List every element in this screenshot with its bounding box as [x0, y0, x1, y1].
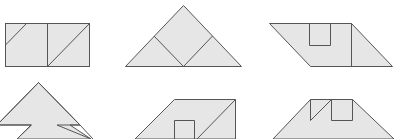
shape-6-trapezoid	[273, 100, 394, 140]
shape-5-parallelogram	[135, 100, 236, 140]
shapes-figure	[0, 0, 398, 139]
shape-4-arrowhead	[0, 83, 93, 140]
shape-1-rectangle	[6, 24, 90, 67]
shape-2-triangle	[126, 6, 242, 67]
shape-3-parallelogram	[270, 24, 393, 67]
